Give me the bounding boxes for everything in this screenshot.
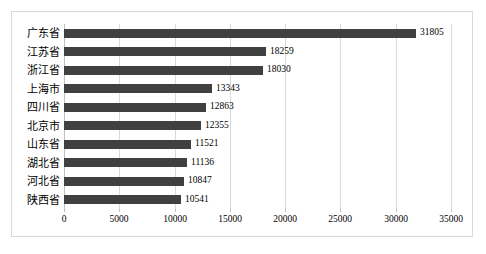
plot-area: 3180518259180301334312863123551152111136… <box>64 24 451 209</box>
tick-mark <box>119 209 120 212</box>
bar-row[interactable]: 12863 <box>64 103 451 112</box>
tick-mark <box>396 209 397 212</box>
gridline <box>451 24 452 209</box>
category-label: 江苏省 <box>10 46 60 57</box>
tick-mark <box>230 209 231 212</box>
x-tick-label: 0 <box>62 215 67 225</box>
category-label: 广东省 <box>10 28 60 39</box>
bar-value-label: 18259 <box>270 47 294 57</box>
tick-mark <box>64 209 65 212</box>
x-tick-label: 5000 <box>110 215 129 225</box>
category-label: 河北省 <box>10 176 60 187</box>
category-label: 湖北省 <box>10 157 60 168</box>
tick-mark <box>340 209 341 212</box>
bar-value-label: 11521 <box>195 140 218 150</box>
bar-row[interactable]: 11136 <box>64 158 451 167</box>
category-label: 陕西省 <box>10 194 60 205</box>
x-tick-label: 30000 <box>384 215 408 225</box>
tick-mark <box>175 209 176 212</box>
bar-value-label: 31805 <box>420 29 444 39</box>
bar[interactable] <box>64 103 206 112</box>
category-label: 上海市 <box>10 83 60 94</box>
bar-row[interactable]: 10847 <box>64 177 451 186</box>
bar[interactable] <box>64 158 187 167</box>
x-tick-label: 15000 <box>218 215 242 225</box>
category-label: 浙江省 <box>10 65 60 76</box>
bar-value-label: 11136 <box>191 158 214 168</box>
bar[interactable] <box>64 66 263 75</box>
x-tick-label: 20000 <box>273 215 297 225</box>
x-tick-label: 25000 <box>328 215 352 225</box>
bar-value-label: 10847 <box>188 177 212 187</box>
category-label: 四川省 <box>10 102 60 113</box>
bar-value-label: 13343 <box>216 84 240 94</box>
category-axis: 广东省江苏省浙江省上海市四川省北京市山东省湖北省河北省陕西省 <box>12 24 60 209</box>
x-tick-label: 35000 <box>439 215 463 225</box>
bar-value-label: 12355 <box>205 121 229 131</box>
tick-mark <box>451 209 452 212</box>
bar-row[interactable]: 10541 <box>64 195 451 204</box>
bar-row[interactable]: 13343 <box>64 84 451 93</box>
category-label: 北京市 <box>10 120 60 131</box>
bar-row[interactable]: 18030 <box>64 66 451 75</box>
chart-frame: 广东省江苏省浙江省上海市四川省北京市山东省湖北省河北省陕西省 318051825… <box>11 11 473 237</box>
x-axis-tick-labels: 05000100001500020000250003000035000 <box>64 215 451 229</box>
bar-value-label: 18030 <box>267 66 291 76</box>
bar-row[interactable]: 11521 <box>64 140 451 149</box>
bar-value-label: 10541 <box>185 195 209 205</box>
bar[interactable] <box>64 177 184 186</box>
x-axis-tick-marks <box>64 209 451 213</box>
bar[interactable] <box>64 84 212 93</box>
bar-row[interactable]: 12355 <box>64 121 451 130</box>
bar[interactable] <box>64 29 416 38</box>
bar[interactable] <box>64 47 266 56</box>
x-tick-label: 10000 <box>163 215 187 225</box>
bar-row[interactable]: 18259 <box>64 47 451 56</box>
bar-value-label: 12863 <box>210 103 234 113</box>
bar-row[interactable]: 31805 <box>64 29 451 38</box>
category-label: 山东省 <box>10 139 60 150</box>
bar[interactable] <box>64 195 181 204</box>
tick-mark <box>285 209 286 212</box>
bar[interactable] <box>64 140 191 149</box>
bar[interactable] <box>64 121 201 130</box>
